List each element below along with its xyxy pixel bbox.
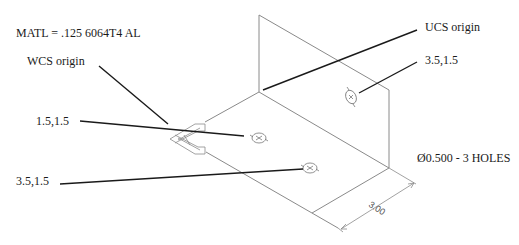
hole-3-5-1-5-base (301, 163, 319, 173)
wcs-origin-label: WCS origin (27, 54, 85, 68)
ucs-origin-label: UCS origin (425, 20, 480, 34)
hole-1-5-1-5 (250, 133, 268, 143)
material-note: MATL = .125 6064T4 AL (16, 26, 141, 40)
leader-lines (60, 30, 417, 184)
dimension-3-00 (338, 168, 416, 232)
hole-3-5-1-5-vertical (344, 87, 359, 107)
hole-label-3-5-1-5-base: 3.5,1.5 (16, 174, 49, 188)
hole-label-3-5-1-5-vertical: 3.5,1.5 (425, 53, 458, 67)
vertical-plate (259, 15, 389, 168)
leader-wcs-origin (99, 66, 168, 124)
leader-3-5-1-5-base (60, 169, 303, 184)
base-plate (205, 92, 389, 228)
hole-label-1-5-1-5: 1.5,1.5 (36, 114, 69, 128)
leader-1-5-1-5 (80, 121, 244, 136)
wcs-axis-icon (170, 124, 205, 154)
hole-note: Ø0.500 - 3 HOLES (417, 151, 510, 165)
leader-ucs-origin (263, 30, 417, 90)
